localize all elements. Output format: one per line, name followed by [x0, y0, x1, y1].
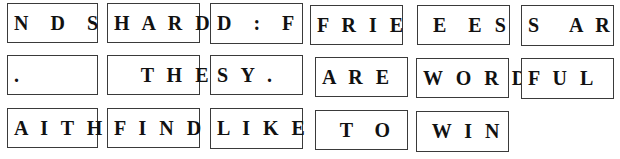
- tile-text: N D S: [14, 12, 102, 35]
- tile-text: F I N D: [114, 117, 205, 140]
- word-tile[interactable]: A R E: [315, 57, 408, 97]
- word-tile[interactable]: T H E: [107, 55, 200, 95]
- word-tile[interactable]: F I N D: [107, 108, 200, 148]
- tile-text: T O: [322, 119, 394, 142]
- word-tile[interactable]: A I T H: [7, 108, 98, 148]
- word-tile[interactable]: .: [7, 55, 98, 95]
- tile-text: W I N: [423, 120, 504, 143]
- tile-text: E E S: [424, 14, 510, 37]
- word-tile[interactable]: F R I E: [310, 5, 403, 45]
- tile-text: .: [14, 64, 23, 87]
- word-tile[interactable]: F U L: [521, 58, 614, 99]
- word-tile[interactable]: S Y .: [210, 55, 303, 95]
- tile-text: S Y .: [217, 64, 276, 87]
- tile-text: A I T H: [14, 117, 106, 140]
- tile-text: F U L: [528, 67, 597, 90]
- word-tile[interactable]: S A R: [521, 5, 614, 46]
- tile-text: S A R: [528, 14, 614, 37]
- word-tile[interactable]: N D S: [7, 3, 98, 43]
- tile-text: H A R D: [114, 12, 214, 35]
- tile-text: A R E: [322, 66, 393, 89]
- word-tile[interactable]: H A R D: [107, 3, 200, 43]
- tile-text: L I K E: [217, 117, 309, 140]
- tile-text: W O R D: [423, 67, 530, 90]
- word-tile[interactable]: L I K E: [210, 108, 303, 149]
- word-tile[interactable]: D : F: [210, 3, 303, 44]
- word-tile[interactable]: E E S: [417, 5, 510, 45]
- tile-text: F R I E: [317, 14, 407, 37]
- tile-text: T H E: [114, 64, 213, 87]
- tile-text: D : F: [217, 12, 298, 35]
- word-tile[interactable]: W I N: [416, 111, 509, 152]
- word-tile[interactable]: W O R D: [416, 58, 509, 98]
- word-tile[interactable]: T O: [315, 110, 408, 150]
